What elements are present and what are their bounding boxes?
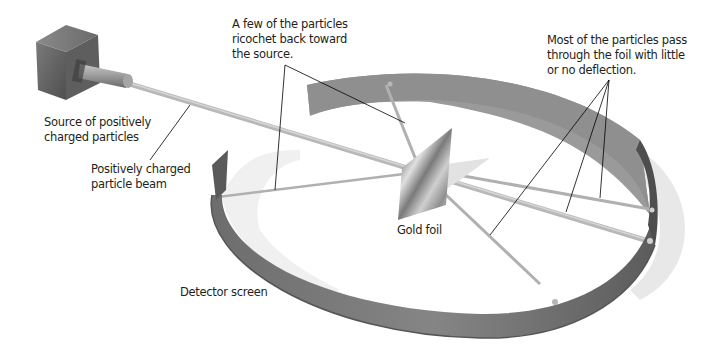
label-beam: Positively charged particle beam — [91, 162, 190, 192]
impact-dot — [552, 299, 558, 305]
impact-dot — [388, 82, 393, 87]
label-gold-foil: Gold foil — [397, 223, 442, 238]
label-detector-screen: Detector screen — [180, 285, 268, 300]
particle-source — [36, 25, 133, 100]
label-ricochet: A few of the particles ricochet back tow… — [232, 17, 348, 62]
impact-dot — [647, 238, 653, 244]
detector-screen-back-face — [307, 74, 650, 215]
label-source: Source of positively charged particles — [44, 115, 151, 145]
gold-foil — [398, 128, 452, 220]
impact-dot — [650, 208, 655, 213]
label-pass-through: Most of the particles pass through the f… — [547, 33, 687, 78]
leader-beam — [150, 105, 190, 160]
